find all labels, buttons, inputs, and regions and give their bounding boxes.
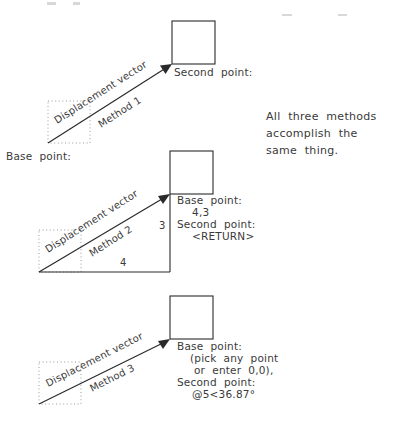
method-2-solid-square xyxy=(170,151,213,194)
side-note-line-1: All three methods xyxy=(266,110,377,123)
method-1-second-point-label: Second point: xyxy=(174,66,252,78)
method-3-group: Displacement vector Method 3 Base point:… xyxy=(39,296,278,404)
method-2-prompt-second-value: <RETURN> xyxy=(192,230,254,242)
method-2-arrowhead xyxy=(158,194,170,204)
method-3-prompt-pick-any: (pick any point xyxy=(190,352,278,364)
scan-artifact xyxy=(73,2,80,5)
method-2-group: Displacement vector Method 2 3 4 Base po… xyxy=(39,151,255,272)
method-3-prompt-polar-value: @5<36.87° xyxy=(192,388,255,400)
side-note-line-2: accomplish the xyxy=(266,127,358,140)
method-1-displacement-vector xyxy=(48,66,169,143)
method-2-method-label: Method 2 xyxy=(87,223,134,258)
side-note-line-3: same thing. xyxy=(266,144,338,157)
method-1-base-point-label: Base point: xyxy=(6,150,71,162)
method-1-group: Displacement vector Method 1 Base point:… xyxy=(6,21,252,162)
method-2-prompt-base-point: Base point: xyxy=(177,194,242,206)
method-3-prompt-second-point: Second point: xyxy=(177,376,255,388)
method-1-arrowhead xyxy=(160,64,172,74)
scan-artifact xyxy=(282,14,292,16)
method-3-solid-square xyxy=(170,296,213,339)
method-2-prompt-second-point: Second point: xyxy=(177,218,255,230)
method-3-method-label: Method 3 xyxy=(88,362,136,394)
scan-artifact xyxy=(338,14,347,16)
method-1-method-label: Method 1 xyxy=(96,94,143,129)
method-1-vector-label: Displacement vector xyxy=(52,58,149,125)
method-2-horizontal-dimension: 4 xyxy=(120,257,127,268)
diagram-canvas: Displacement vector Method 1 Base point:… xyxy=(0,0,413,444)
method-2-vertical-dimension: 3 xyxy=(159,220,166,231)
method-3-prompt-base-point: Base point: xyxy=(177,340,242,352)
method-3-prompt-or-enter: or enter 0,0), xyxy=(194,364,273,376)
scan-artifact xyxy=(47,2,56,5)
method-1-solid-square xyxy=(172,21,215,64)
method-2-prompt-base-value: 4,3 xyxy=(192,206,209,218)
side-note: All three methods accomplish the same th… xyxy=(266,110,377,157)
